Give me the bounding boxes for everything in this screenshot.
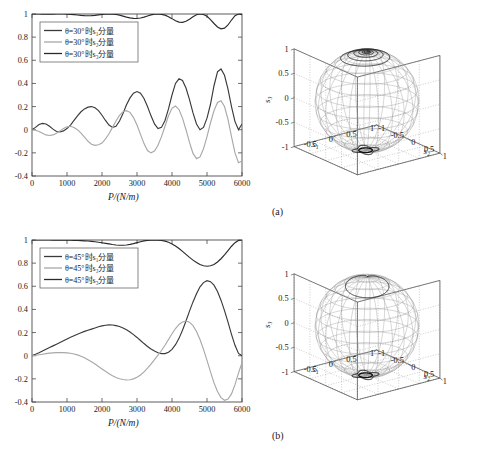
ztick-label: -0.5 <box>275 118 288 127</box>
ytick-label: 0.4 <box>18 305 29 314</box>
ytick-label: 1 <box>443 377 447 386</box>
xtick-label: 0 <box>329 135 333 144</box>
xtick-label: 6000 <box>234 405 251 414</box>
legend-label-s1: θ=45°时s₁分量 <box>65 252 114 262</box>
xtick-label: 4000 <box>164 179 181 188</box>
figure-container: 1 0.8 0.6 0.4 0.2 0 -0.2 -0.4 <box>0 0 483 455</box>
ztick-label: 1 <box>284 270 288 279</box>
xtick-label: 3000 <box>129 405 146 414</box>
xtick-label: 5000 <box>199 179 216 188</box>
xtick-label: 0 <box>329 360 333 369</box>
chart-a-legend: θ=30°时s₁分量 θ=30°时s₂分量 θ=30°时s₃分量 <box>40 22 138 62</box>
sphere-tick-labels: -1-0.500.51-0.500.51-1-0.500.51 <box>275 45 447 161</box>
sphere-zaxis-label: s₃ <box>262 96 272 103</box>
legend-label-s3: θ=45°时s₃分量 <box>65 275 114 285</box>
sphere-panel-a: -1-0.500.51-0.500.51-1-0.500.51s₁s₂s₃ <box>255 5 483 200</box>
ytick-label: 0.4 <box>18 79 29 88</box>
ytick-label: 0.2 <box>18 329 28 338</box>
ztick-label: 1 <box>284 45 288 54</box>
ytick-label: -0.5 <box>391 356 404 365</box>
sphere-a-svg: -1-0.500.51-0.500.51-1-0.500.51s₁s₂s₃ <box>255 5 483 200</box>
chart-b-yticklabels: 1 0.8 0.6 0.4 0.2 0 -0.2 -0.4 <box>15 236 29 407</box>
xtick-label: 0.5 <box>346 130 356 139</box>
sphere-yaxis-label: s₂ <box>424 146 431 156</box>
ztick-label: -0.5 <box>275 343 288 352</box>
chart-panel-b: 1 0.8 0.6 0.4 0.2 0 -0.2 -0.4 <box>0 228 255 418</box>
ytick-label: 0.8 <box>18 33 28 42</box>
sphere-tick-labels: -1-0.500.51-0.500.51-1-0.500.51 <box>275 270 447 386</box>
ytick-label: 0.6 <box>18 56 28 65</box>
ztick-label: 0 <box>284 319 288 328</box>
legend-label-s2: θ=45°时s₂分量 <box>65 263 114 273</box>
sphere-trajectory <box>345 275 389 379</box>
ytick-label: 0.6 <box>18 282 28 291</box>
xtick-label: 0.5 <box>346 355 356 364</box>
ytick-label: -0.4 <box>15 172 29 181</box>
sphere-xaxis-label: s₁ <box>312 364 319 374</box>
ytick-label: 0.8 <box>18 259 28 268</box>
ztick-label: -1 <box>282 368 289 377</box>
ytick-label: -0.5 <box>391 131 404 140</box>
xtick-label: 2000 <box>94 405 111 414</box>
sphere-panel-b: -1-0.500.51-0.500.51-1-0.500.51s₁s₂s₃ <box>255 230 483 425</box>
chart-a-yticklabels: 1 0.8 0.6 0.4 0.2 0 -0.2 -0.4 <box>15 10 29 181</box>
xtick-label: 6000 <box>234 179 251 188</box>
ytick-label: 1 <box>24 236 28 245</box>
ytick-label: 1 <box>24 10 28 19</box>
ztick-label: 0.5 <box>278 69 288 78</box>
chart-b-xticklabels: 0 1000 2000 3000 4000 5000 6000 <box>30 405 250 414</box>
sphere-b-svg: -1-0.500.51-0.500.51-1-0.500.51s₁s₂s₃ <box>255 230 483 425</box>
ztick-label: 0 <box>284 94 288 103</box>
ytick-label: -0.2 <box>15 149 28 158</box>
legend-label-s1: θ=30°时s₁分量 <box>65 26 114 36</box>
sphere-xaxis-label: s₁ <box>312 139 319 149</box>
ytick-label: 0 <box>24 352 28 361</box>
xtick-label: 4000 <box>164 405 181 414</box>
sphere-yaxis-label: s₂ <box>424 371 431 381</box>
ytick-label: 0.2 <box>18 103 28 112</box>
chart-panel-a: 1 0.8 0.6 0.4 0.2 0 -0.2 -0.4 <box>0 2 255 192</box>
chart-a-xaxis-label: P/(N/m) <box>108 192 139 202</box>
ztick-label: -1 <box>282 143 289 152</box>
ytick-label: 0 <box>411 138 415 147</box>
xtick-label: 1000 <box>59 179 76 188</box>
legend-label-s2: θ=30°时s₂分量 <box>65 37 114 47</box>
ytick-label: -0.2 <box>15 375 28 384</box>
panel-label-b: (b) <box>272 430 284 441</box>
ytick-label: -1 <box>378 124 385 133</box>
chart-a-svg: 1 0.8 0.6 0.4 0.2 0 -0.2 -0.4 <box>0 2 255 192</box>
xtick-label: 1 <box>370 124 374 133</box>
xtick-label: 1 <box>370 349 374 358</box>
legend-label-s3: θ=30°时s₃分量 <box>65 49 114 59</box>
ytick-label: 0 <box>411 363 415 372</box>
chart-b-legend: θ=45°时s₁分量 θ=45°时s₂分量 θ=45°时s₃分量 <box>40 248 138 288</box>
xtick-label: 1000 <box>59 405 76 414</box>
ytick-label: 1 <box>443 152 447 161</box>
chart-a-xticklabels: 0 1000 2000 3000 4000 5000 6000 <box>30 179 250 188</box>
panel-label-a: (a) <box>272 206 283 217</box>
xtick-label: 0 <box>30 405 34 414</box>
ytick-label: -0.4 <box>15 398 29 407</box>
xtick-label: 5000 <box>199 405 216 414</box>
xtick-label: 3000 <box>129 179 146 188</box>
sphere-zaxis-label: s₃ <box>262 321 272 328</box>
xtick-label: 2000 <box>94 179 111 188</box>
xtick-label: 0 <box>30 179 34 188</box>
chart-b-xaxis-label: P/(N/m) <box>108 418 139 428</box>
chart-b-svg: 1 0.8 0.6 0.4 0.2 0 -0.2 -0.4 <box>0 228 255 418</box>
ztick-label: 0.5 <box>278 294 288 303</box>
ytick-label: 0 <box>24 126 28 135</box>
ytick-label: -1 <box>378 349 385 358</box>
